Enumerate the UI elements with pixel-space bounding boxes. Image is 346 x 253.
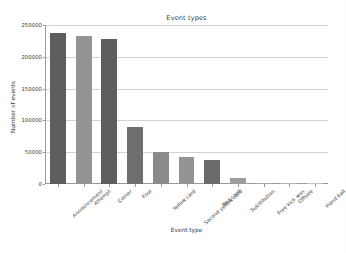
y-tick-mark-100000 bbox=[43, 120, 46, 121]
x-tick-mark-7 bbox=[238, 184, 239, 187]
x-tick-label-hand-ball: Hand ball bbox=[324, 188, 346, 209]
x-tick-label-corner: Corner bbox=[117, 188, 134, 204]
x-tick-mark-2 bbox=[109, 184, 110, 187]
x-tick-mark-3 bbox=[135, 184, 136, 187]
y-tick-mark-250000 bbox=[43, 25, 46, 26]
x-tick-label-red-card: Red card bbox=[221, 188, 242, 207]
x-tick-mark-10 bbox=[315, 184, 316, 187]
x-tick-label-foul: Foul bbox=[141, 188, 153, 199]
y-tick-mark-50000 bbox=[43, 152, 46, 153]
y-tick-mark-150000 bbox=[43, 89, 46, 90]
x-tick-mark-9 bbox=[289, 184, 290, 187]
x-tick-label-substitution: Substitution bbox=[249, 188, 276, 213]
x-tick-label-yellow-card: Yellow card bbox=[171, 188, 196, 212]
x-tick-mark-5 bbox=[187, 184, 188, 187]
x-tick-mark-6 bbox=[212, 184, 213, 187]
x-tick-mark-1 bbox=[84, 184, 85, 187]
x-tick-mark-4 bbox=[161, 184, 162, 187]
x-axis-label: Event type bbox=[45, 227, 328, 233]
y-tick-mark-0 bbox=[43, 184, 46, 185]
x-tick-mark-8 bbox=[264, 184, 265, 187]
y-tick-mark-200000 bbox=[43, 57, 46, 58]
x-tick-mark-0 bbox=[58, 184, 59, 187]
